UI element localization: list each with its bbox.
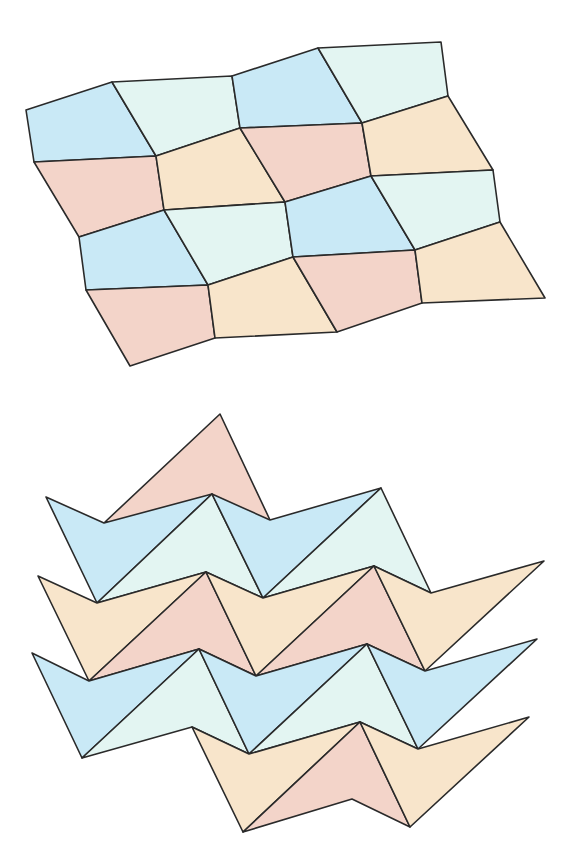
tessellation-figure (0, 0, 572, 854)
quadrilateral-tiling (26, 42, 545, 366)
quad-tile-pink (86, 285, 215, 366)
triangle-tiling (32, 414, 544, 832)
